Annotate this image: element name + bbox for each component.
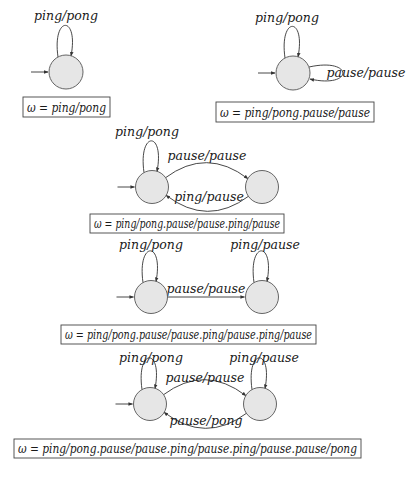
state-q0 <box>135 281 168 314</box>
transition-ping-pause-edge <box>253 251 268 283</box>
diagram-2: ping/pongpause/pauseω = ping/pong.pause/… <box>216 10 405 122</box>
word-text: ω = ping/pong.pause/pause.ping/pause.pin… <box>18 441 357 456</box>
transition-pause-pause-label: pause/pause <box>167 281 246 296</box>
state-q0 <box>136 171 169 204</box>
transition-pause-pause-edge <box>165 163 248 179</box>
transition-ping-pause-label: ping/pause <box>230 237 300 252</box>
transition-ping-pong-edge <box>142 251 157 283</box>
diagram-4: ping/pongping/pausepause/pauseω = ping/p… <box>61 237 316 344</box>
state-q0 <box>134 388 167 421</box>
transition-ping-pong-label: ping/pong <box>115 124 179 139</box>
word-text: ω = ping/pong.pause/pause.ping/pause.pin… <box>65 327 312 342</box>
transition-pause-pause-label: pause/pause <box>168 148 247 163</box>
state-q1 <box>246 281 279 314</box>
state-q1 <box>244 388 277 421</box>
transition-ping-pong-label: ping/pong <box>255 10 319 25</box>
transition-pause-pause-label: pause/pause <box>166 370 245 385</box>
state-q0 <box>49 55 83 89</box>
transition-ping-pause-label: ping/pause <box>174 189 244 204</box>
diagram-3: ping/pongpause/pauseping/pauseω = ping/p… <box>90 124 284 233</box>
state-q1 <box>246 171 279 204</box>
diagram-1: ping/pongω = ping/pong <box>23 8 110 117</box>
transition-ping-pong-edge <box>143 141 158 173</box>
state-q0 <box>276 56 310 90</box>
word-text: ω = ping/pong.pause/pause.ping/pause <box>94 216 280 231</box>
word-text: ω = ping/pong <box>27 100 106 115</box>
transition-ping-pong-label: ping/pong <box>34 8 98 23</box>
word-text: ω = ping/pong.pause/pause <box>220 105 370 120</box>
transition-ping-pong-edge <box>57 25 72 57</box>
transition-pause-pause-label: pause/pause <box>327 65 406 80</box>
diagram-5: ping/pongping/pausepause/pausepause/pong… <box>14 350 361 458</box>
transition-ping-pong-edge <box>284 26 299 58</box>
transition-ping-pong-label: ping/pong <box>119 237 183 252</box>
transition-ping-pong-label: ping/pong <box>119 350 183 365</box>
transition-pause-pong-label: pause/pong <box>169 413 242 428</box>
mealy-machine-diagrams: ping/pongω = ping/pongping/pongpause/pau… <box>0 0 420 477</box>
transition-ping-pause-label: ping/pause <box>229 350 299 365</box>
